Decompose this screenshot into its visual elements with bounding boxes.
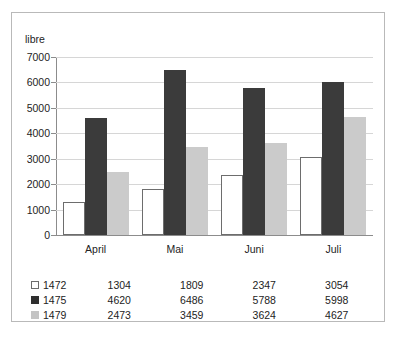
chart-frame: libre 01000200030004000500060007000 Apri… — [11, 12, 385, 322]
bar-groups: AprilMaiJuniJuli — [56, 57, 373, 235]
legend-label-1479: 1479 — [43, 309, 66, 321]
y-tick-label-4000: 4000 — [27, 127, 50, 139]
y-tick-label-5000: 5000 — [27, 102, 50, 114]
bar-group-mai: Mai — [135, 57, 214, 235]
plot-area: 01000200030004000500060007000 AprilMaiJu… — [56, 57, 373, 235]
x-axis-label-mai: Mai — [135, 243, 214, 255]
value-1475-juni: 5788 — [228, 294, 301, 306]
value-1472-mai: 1809 — [156, 279, 229, 291]
legend-entry-1475[interactable]: 1475 — [31, 294, 83, 306]
bar-1475-juli — [322, 82, 344, 235]
bar-1479-juli — [344, 117, 366, 235]
bar-group-april: April — [56, 57, 135, 235]
bar-group-juli: Juli — [294, 57, 373, 235]
bar-1472-april — [63, 202, 85, 235]
bar-group-juni: Juni — [215, 57, 294, 235]
value-1479-mai: 3459 — [156, 309, 229, 321]
bar-1479-mai — [186, 147, 208, 235]
legend-swatch-icon-1472 — [31, 281, 39, 289]
legend-entry-1472[interactable]: 1472 — [31, 279, 83, 291]
value-1479-juli: 4627 — [301, 309, 374, 321]
legend-label-1472: 1472 — [43, 279, 66, 291]
y-tick-mark-0 — [51, 235, 56, 236]
legend-label-1475: 1475 — [43, 294, 66, 306]
bar-1475-mai — [164, 70, 186, 235]
value-1475-juli: 5998 — [301, 294, 374, 306]
gridline-0 — [56, 235, 373, 236]
y-tick-label-2000: 2000 — [27, 178, 50, 190]
value-1472-juni: 2347 — [228, 279, 301, 291]
data-row-1472: 14721304180923473054 — [56, 277, 373, 292]
data-row-1479: 14792473345936244627 — [56, 307, 373, 322]
bar-1472-mai — [142, 189, 164, 235]
bar-1479-juni — [265, 143, 287, 235]
y-tick-label-3000: 3000 — [27, 153, 50, 165]
x-axis-label-juli: Juli — [294, 243, 373, 255]
value-1479-april: 2473 — [83, 309, 156, 321]
legend-swatch-icon-1479 — [31, 311, 39, 319]
bar-1475-juni — [243, 88, 265, 235]
y-tick-label-7000: 7000 — [27, 51, 50, 63]
legend-entry-1479[interactable]: 1479 — [31, 309, 83, 321]
value-1472-april: 1304 — [83, 279, 156, 291]
y-tick-label-1000: 1000 — [27, 204, 50, 216]
y-axis-title: libre — [25, 33, 45, 45]
y-tick-label-0: 0 — [44, 229, 50, 241]
bar-1479-april — [107, 172, 129, 235]
value-1472-juli: 3054 — [301, 279, 374, 291]
bar-1475-april — [85, 118, 107, 235]
value-1475-mai: 6486 — [156, 294, 229, 306]
bar-1472-juli — [300, 157, 322, 235]
legend-data-table: 1472130418092347305414754620648657885998… — [56, 277, 373, 322]
value-1479-juni: 3624 — [228, 309, 301, 321]
legend-swatch-icon-1475 — [31, 296, 39, 304]
x-axis-label-april: April — [56, 243, 135, 255]
bar-1472-juni — [221, 175, 243, 235]
value-1475-april: 4620 — [83, 294, 156, 306]
data-row-1475: 14754620648657885998 — [56, 292, 373, 307]
x-axis-label-juni: Juni — [215, 243, 294, 255]
y-tick-label-6000: 6000 — [27, 76, 50, 88]
